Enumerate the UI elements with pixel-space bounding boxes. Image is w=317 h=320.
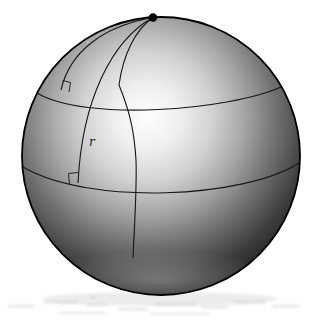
print-speck-on-sphere [86, 40, 90, 43]
pole-point [149, 13, 157, 21]
figure-sphere-diagram: r [0, 0, 317, 320]
sphere-diagram-svg: r [0, 0, 317, 320]
